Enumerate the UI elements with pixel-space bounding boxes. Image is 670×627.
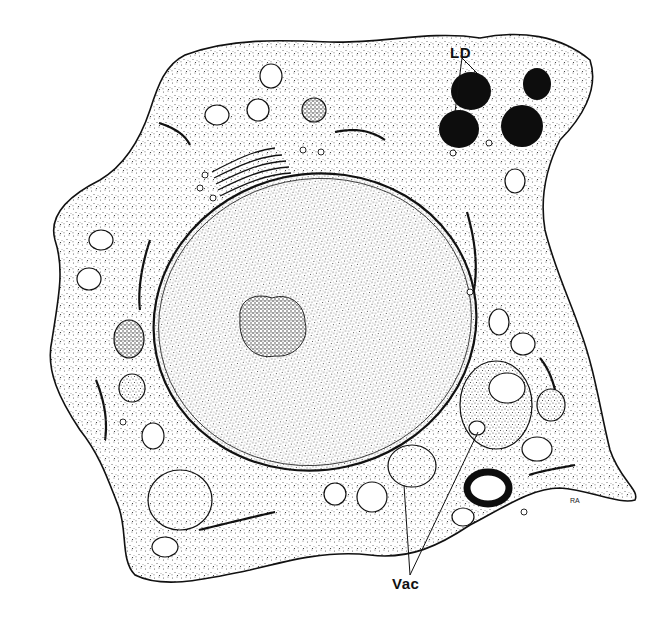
label-lipid-droplets: LD <box>450 44 471 61</box>
cell-diagram: LD Vac RA <box>0 0 670 627</box>
label-vacuoles: Vac <box>392 575 419 592</box>
ring-inclusion <box>467 472 509 504</box>
nucleolus <box>240 296 306 357</box>
artist-signature: RA <box>570 497 580 504</box>
cell-illustration <box>0 0 670 627</box>
